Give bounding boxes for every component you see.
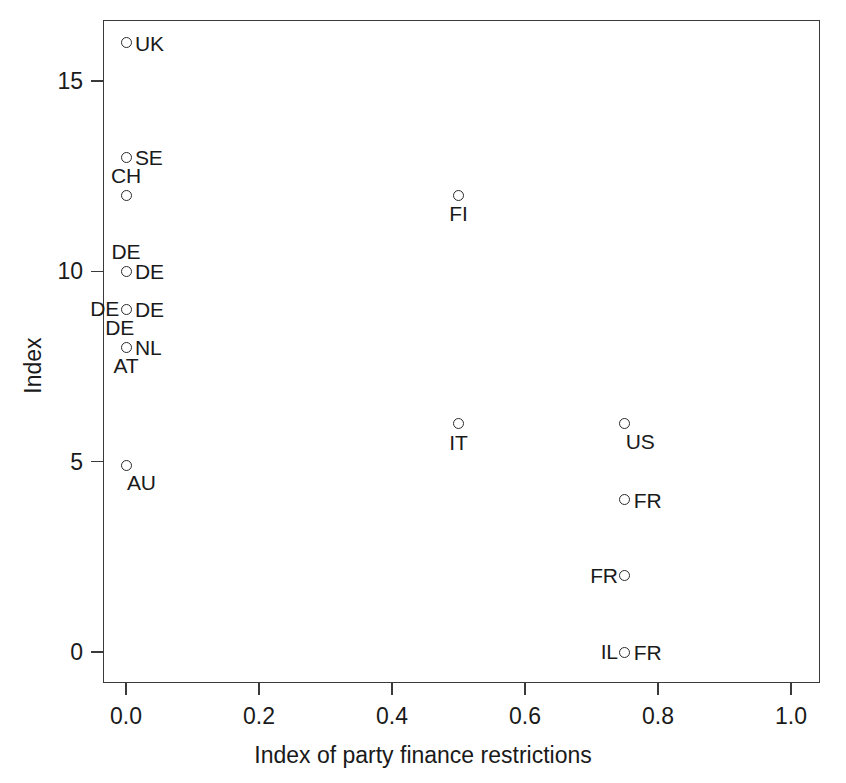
data-point	[619, 570, 630, 581]
y-tick-label: 10	[31, 260, 83, 283]
data-point-label: US	[626, 431, 655, 452]
data-point	[121, 460, 132, 471]
data-point	[121, 342, 132, 353]
y-tick-label: 15	[31, 70, 83, 93]
data-point-label: UK	[135, 33, 164, 54]
data-point	[121, 266, 132, 277]
y-tick-label: 0	[31, 641, 83, 664]
x-tick	[524, 683, 526, 695]
data-point-label: IL	[601, 641, 618, 662]
x-tick-label: 0.4	[376, 705, 408, 728]
data-point	[121, 152, 132, 163]
data-point	[453, 190, 464, 201]
data-point-label: FR	[634, 642, 662, 663]
y-tick	[91, 271, 103, 273]
data-point-label: CH	[111, 165, 141, 186]
data-point	[121, 37, 132, 48]
data-point	[121, 190, 132, 201]
data-point-label: IT	[449, 432, 467, 453]
data-point-label: NL	[135, 337, 161, 358]
x-tick-label: 1.0	[775, 705, 807, 728]
x-tick-label: 0.6	[509, 705, 541, 728]
data-point	[453, 418, 464, 429]
y-tick-label: 5	[31, 450, 83, 473]
data-point-label: AU	[127, 472, 156, 493]
x-tick-label: 0.8	[642, 705, 674, 728]
x-tick-label: 0.2	[243, 705, 275, 728]
data-point-label: DE	[105, 317, 134, 338]
y-tick	[91, 80, 103, 82]
data-point	[619, 494, 630, 505]
data-point-label: DE	[135, 261, 164, 282]
x-tick	[790, 683, 792, 695]
plot-area: UKSECHDEDEDEDEDENLATAUFIITUSFRFRILFR	[103, 20, 820, 683]
data-point-label: FI	[449, 203, 467, 224]
y-tick	[91, 651, 103, 653]
y-tick	[91, 461, 103, 463]
data-point-label: FR	[634, 490, 662, 511]
x-tick-label: 0.0	[110, 705, 142, 728]
x-tick	[657, 683, 659, 695]
data-point-label: DE	[112, 241, 141, 262]
data-point-label: FR	[590, 565, 618, 586]
x-tick	[391, 683, 393, 695]
scatter-plot-figure: UKSECHDEDEDEDEDENLATAUFIITUSFRFRILFR 0.0…	[0, 0, 846, 783]
x-axis-label: Index of party finance restrictions	[0, 742, 846, 769]
y-axis-label: Index	[20, 286, 47, 446]
data-point	[121, 304, 132, 315]
x-tick	[258, 683, 260, 695]
data-point-label: AT	[114, 355, 139, 376]
data-point	[619, 418, 630, 429]
data-point-label: DE	[135, 299, 164, 320]
x-tick	[125, 683, 127, 695]
data-point	[619, 647, 630, 658]
